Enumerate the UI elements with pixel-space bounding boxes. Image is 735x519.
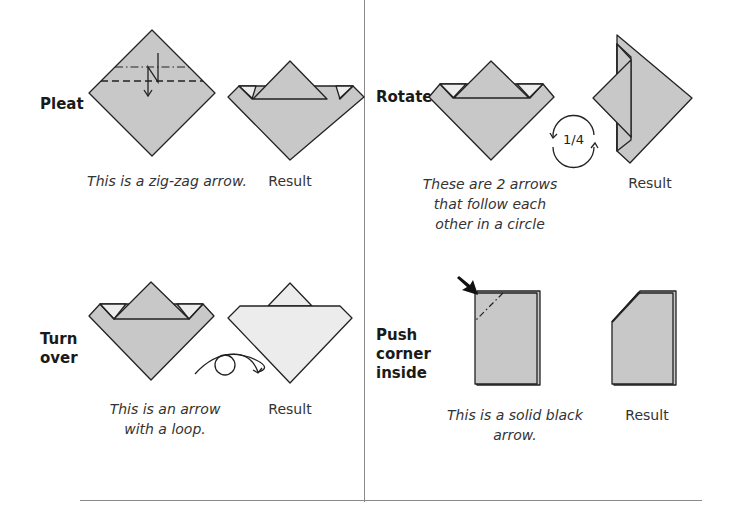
push-corner-caption: This is a solid black arrow. [440,405,590,445]
push-corner-caption-line: This is a solid black [440,405,590,425]
push-corner-result-label: Result [612,405,682,425]
push-corner-result-diagram [0,0,735,519]
push-corner-caption-line: arrow. [440,425,590,445]
